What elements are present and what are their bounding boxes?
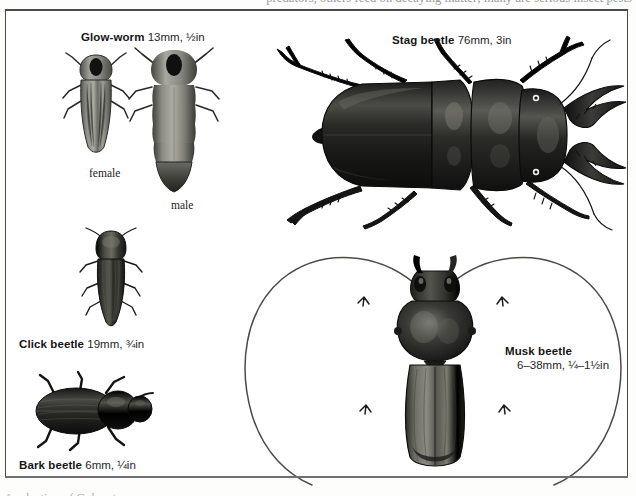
measurement-glow-worm: 13mm, ½in — [148, 31, 205, 43]
glow-worm-male-illustration — [128, 47, 220, 197]
species-name-bark-beetle: Bark beetle — [19, 459, 82, 471]
glow-worm-female-illustration — [61, 51, 131, 161]
caption-musk-beetle: Musk beetle 6–38mm, ¼–1½in — [505, 344, 609, 372]
species-name-musk-beetle: Musk beetle — [505, 345, 572, 357]
measurement-click-beetle: 19mm, ¾in — [87, 338, 144, 350]
caption-stag-beetle: Stag beetle 76mm, 3in — [392, 33, 511, 47]
sub-label-male: male — [171, 199, 193, 211]
cut-off-running-text-top: predators, others feed on decaying matte… — [0, 0, 636, 7]
illustration-frame: Glow-worm 13mm, ½in Stag beetle 76mm, 3i… — [5, 9, 628, 478]
plate-page: predators, others feed on decaying matte… — [0, 0, 636, 496]
measurement-stag-beetle: 76mm, 3in — [458, 34, 512, 46]
caption-glow-worm: Glow-worm 13mm, ½in — [81, 30, 205, 44]
stag-beetle-illustration — [264, 36, 630, 241]
cut-off-running-text-bottom: A selection of Coleoptera — [0, 491, 636, 496]
species-name-glow-worm: Glow-worm — [81, 31, 145, 43]
bark-beetle-illustration — [20, 371, 156, 455]
species-name-click-beetle: Click beetle — [19, 338, 84, 350]
sub-label-female: female — [89, 167, 120, 179]
species-name-stag-beetle: Stag beetle — [392, 34, 454, 46]
measurement-bark-beetle: 6mm, ¼in — [85, 459, 136, 471]
caption-click-beetle: Click beetle 19mm, ¾in — [19, 337, 144, 351]
click-beetle-illustration — [68, 225, 154, 331]
caption-bark-beetle: Bark beetle 6mm, ¼in — [19, 458, 136, 472]
measurement-musk-beetle: 6–38mm, ¼–1½in — [505, 358, 609, 372]
